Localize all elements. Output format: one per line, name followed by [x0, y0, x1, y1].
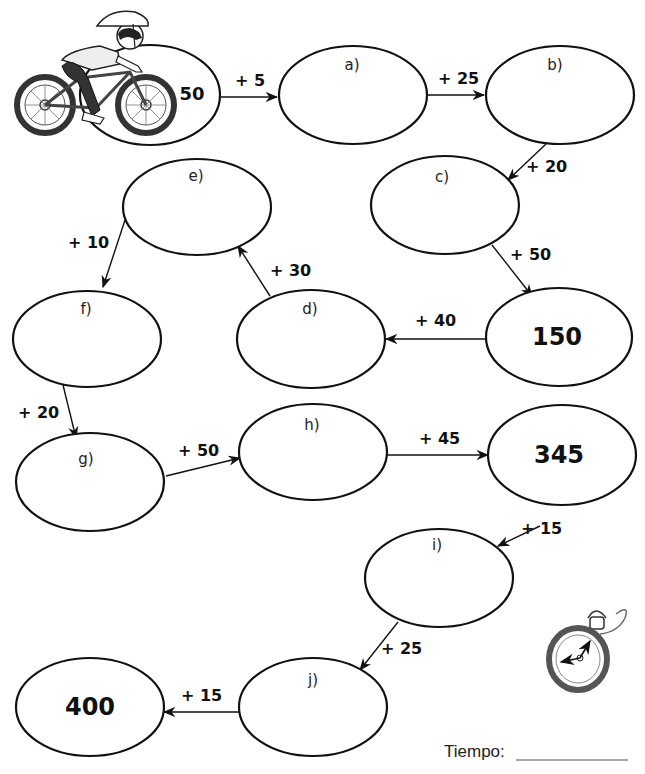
node-label-i: i) — [432, 536, 442, 554]
node-d[interactable]: d) — [237, 290, 385, 388]
op-label-b-c: + 20 — [526, 157, 567, 176]
node-label-g: g) — [78, 450, 93, 468]
node-f[interactable]: f) — [13, 291, 161, 387]
node-g[interactable]: g) — [16, 433, 164, 531]
stopwatch-icon — [549, 610, 626, 690]
node-b[interactable]: b) — [486, 46, 634, 144]
node-h[interactable]: h) — [239, 404, 387, 500]
op-label-d-e: + 30 — [270, 261, 311, 280]
op-label-g-h: + 50 — [178, 441, 219, 460]
op-label-f-g: + 20 — [18, 403, 59, 422]
arrow-f-g — [63, 385, 76, 438]
op-label-345-i: + 15 — [521, 519, 562, 538]
given-value-150: 150 — [532, 323, 582, 351]
op-label-start-a: + 5 — [235, 71, 265, 90]
time-field[interactable]: Tiempo: — [444, 742, 628, 761]
node-150: 150 — [486, 288, 632, 386]
node-label-f: f) — [80, 300, 91, 318]
given-value-345: 345 — [534, 441, 584, 469]
op-label-c-150: + 50 — [510, 245, 551, 264]
arrow-g-h — [166, 458, 240, 476]
node-j[interactable]: j) — [239, 658, 387, 756]
node-400: 400 — [16, 658, 164, 756]
time-label: Tiempo: — [444, 742, 505, 761]
op-label-i-j: + 25 — [381, 639, 422, 658]
given-value-400: 400 — [65, 693, 115, 721]
node-e[interactable]: e) — [123, 159, 271, 255]
addition-chain-diagram: 50 a) b) c) 150 d) e) f) g) h) — [0, 0, 645, 774]
op-label-j-400: + 15 — [181, 686, 222, 705]
op-label-a-b: + 25 — [438, 69, 479, 88]
answer-ellipse-g[interactable] — [16, 433, 164, 531]
node-label-j: j) — [307, 671, 318, 689]
node-label-e: e) — [188, 167, 203, 185]
op-label-h-345: + 45 — [419, 429, 460, 448]
node-i[interactable]: i) — [365, 529, 513, 627]
node-label-a: a) — [344, 56, 359, 74]
arrow-e-f — [103, 220, 125, 287]
node-label-d: d) — [302, 300, 317, 318]
node-c[interactable]: c) — [371, 156, 519, 254]
start-value: 50 — [179, 83, 204, 104]
node-a[interactable]: a) — [279, 46, 427, 144]
arrow-d-e — [238, 246, 270, 296]
op-label-e-f: + 10 — [68, 233, 109, 252]
node-label-h: h) — [304, 416, 319, 434]
node-label-c: c) — [435, 168, 449, 186]
op-label-150-d: + 40 — [415, 311, 456, 330]
node-label-b: b) — [547, 56, 562, 74]
node-345: 345 — [488, 405, 636, 505]
